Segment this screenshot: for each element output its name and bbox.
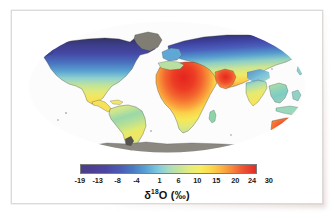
landmass-antarctica-nodata — [82, 142, 292, 159]
tick-label: -13 — [92, 175, 102, 186]
island-dot — [150, 130, 152, 132]
landmass-australia — [271, 118, 317, 141]
island-dot — [65, 112, 67, 114]
colorbar-tick-labels: -19 -13 -8 -4 1 6 10 15 20 24 30 — [64, 175, 274, 187]
tick-label: -4 — [133, 175, 139, 186]
isotope-mass-superscript: 18 — [151, 188, 159, 195]
colorbar-axis-label: δ18O (‰) — [12, 188, 322, 201]
tick-label: -19 — [75, 175, 85, 186]
island-dot — [57, 119, 58, 120]
island-dot — [134, 153, 136, 155]
island-dot — [230, 134, 231, 135]
tick-label: 1 — [158, 175, 162, 186]
tick-label: 20 — [231, 175, 239, 186]
figure-root: -19 -13 -8 -4 1 6 10 15 20 24 30 δ18O (‰… — [0, 0, 335, 219]
tick-label: 6 — [176, 175, 180, 186]
tick-label: 15 — [212, 175, 220, 186]
axis-label-remainder: O (‰) — [159, 189, 190, 201]
tick-label: -8 — [114, 175, 120, 186]
world-map-svg — [12, 13, 322, 161]
island-dot — [271, 68, 272, 69]
landmass-japan — [297, 62, 307, 75]
legend-block: -19 -13 -8 -4 1 6 10 15 20 24 30 δ18O (‰… — [12, 161, 322, 203]
tick-label: 10 — [193, 175, 201, 186]
figure-card: -19 -13 -8 -4 1 6 10 15 20 24 30 δ18O (‰… — [11, 10, 323, 204]
world-map-panel — [12, 13, 322, 161]
colorbar — [80, 164, 257, 174]
tick-label: 30 — [265, 175, 273, 186]
tick-label: 24 — [248, 175, 256, 186]
landmass-new-guinea — [311, 110, 322, 117]
